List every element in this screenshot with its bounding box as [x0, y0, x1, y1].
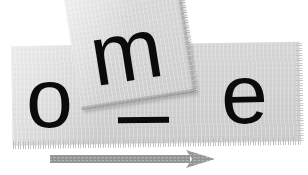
- letter-m: m: [84, 3, 168, 99]
- paper-frayed-right-edge: [295, 42, 304, 141]
- letter-e: e: [220, 52, 268, 137]
- underscore-mark: [118, 117, 169, 124]
- composition-canvas: o e m: [0, 0, 308, 175]
- direction-arrow: [50, 148, 220, 170]
- letter-o: o: [25, 56, 73, 141]
